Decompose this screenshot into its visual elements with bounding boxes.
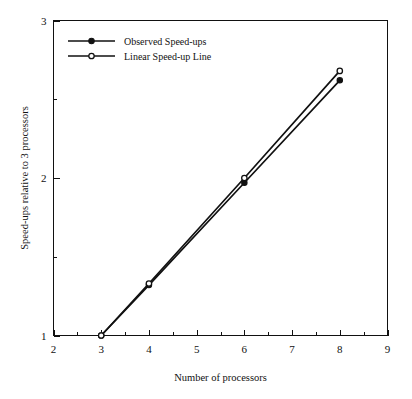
legend-label-linear: Linear Speed-up Line <box>124 51 212 62</box>
legend-marker-open <box>89 53 94 58</box>
plot-frame <box>54 21 388 336</box>
legend-marker-filled <box>89 38 94 43</box>
x-axis-title: Number of processors <box>174 372 267 383</box>
x-tick-label-7: 7 <box>289 343 295 355</box>
x-tick-label-6: 6 <box>242 343 248 355</box>
series-linear <box>99 68 343 338</box>
x-tick-label-2: 2 <box>51 343 57 355</box>
legend-entry-linear: Linear Speed-up Line <box>68 51 212 62</box>
chart-legend: Observed Speed-ups Linear Speed-up Line <box>68 36 212 62</box>
x-tick-label-9: 9 <box>385 343 391 355</box>
series-line <box>101 71 340 336</box>
chart-plot-area: 23456789 123 Observed Speed-ups Linear S… <box>0 0 412 399</box>
x-axis-tick-labels: 23456789 <box>51 343 391 355</box>
x-tick-label-3: 3 <box>98 343 104 355</box>
y-axis-title: Speed-ups relative to 3 processors <box>19 106 30 249</box>
x-tick-label-5: 5 <box>194 343 200 355</box>
x-tick-label-4: 4 <box>146 343 152 355</box>
data-point-marker <box>99 333 104 338</box>
data-point-marker <box>337 68 342 73</box>
legend-label-observed: Observed Speed-ups <box>124 36 207 47</box>
y-tick-label-3: 3 <box>41 15 47 27</box>
data-point-marker <box>146 281 151 286</box>
data-point-marker <box>242 175 247 180</box>
y-tick-label-2: 2 <box>41 172 47 184</box>
chart-container: 23456789 123 Observed Speed-ups Linear S… <box>0 0 412 399</box>
x-tick-label-8: 8 <box>337 343 343 355</box>
legend-entry-observed: Observed Speed-ups <box>68 36 207 47</box>
data-series-group <box>99 68 343 338</box>
y-axis-ticks <box>54 22 60 337</box>
data-point-marker <box>337 78 342 83</box>
y-tick-label-1: 1 <box>41 330 47 342</box>
y-axis-tick-labels: 123 <box>41 15 47 342</box>
